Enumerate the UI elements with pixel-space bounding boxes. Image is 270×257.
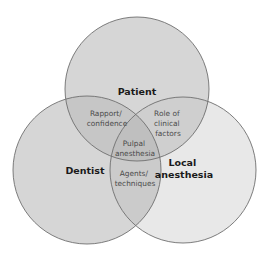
rapport-confidence-label: Rapport/ confidence	[87, 109, 128, 128]
agents-techniques-label: Agents/ techniques	[115, 169, 156, 188]
patient-label: Patient	[118, 86, 157, 97]
role-of-clinical-factors-label: Role of clinical factors	[154, 109, 182, 138]
venn-diagram: Patient Dentist Local anesthesia Rapport…	[0, 0, 270, 257]
dentist-label: Dentist	[65, 165, 105, 176]
